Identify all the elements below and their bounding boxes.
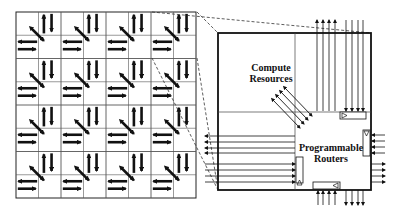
compute-label-line2: Resources: [226, 73, 316, 84]
tile-array: [16, 12, 196, 198]
tile: [18, 60, 52, 95]
tile: [108, 107, 142, 142]
tile: [18, 14, 52, 49]
router-label-line2: Routers: [294, 153, 368, 164]
tile: [108, 60, 142, 95]
diagram-canvas: [0, 0, 398, 215]
tile: [18, 153, 52, 188]
tile: [153, 153, 187, 188]
tile: [153, 60, 187, 95]
tile: [63, 14, 97, 49]
tile: [153, 14, 187, 49]
tile-frame: [218, 33, 371, 190]
compute-label-line1: Compute: [226, 62, 316, 73]
tile: [153, 107, 187, 142]
tile: [108, 14, 142, 49]
tile: [63, 60, 97, 95]
tile-detail: [205, 20, 385, 205]
tile: [18, 107, 52, 142]
programmable-routers-label: Programmable Routers: [294, 142, 368, 164]
fpga-tile-diagram: Compute Resources Programmable Routers: [0, 0, 398, 215]
tile: [63, 107, 97, 142]
tile: [63, 153, 97, 188]
tile: [108, 153, 142, 188]
compute-resources-label: Compute Resources: [226, 62, 316, 84]
router-label-line1: Programmable: [294, 142, 368, 153]
